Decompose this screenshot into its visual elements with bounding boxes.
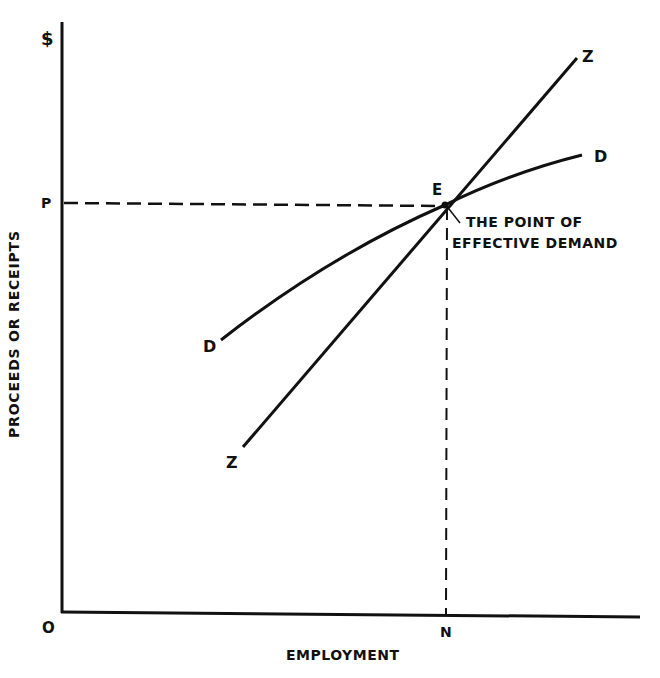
y-tick-p-label: P — [41, 196, 52, 210]
y-axis-title: PROCEEDS OR RECEIPTS — [6, 230, 22, 438]
price-guide-dashed — [64, 203, 444, 206]
curve-z-start-label: Z — [226, 455, 238, 471]
annotation-pointer — [449, 209, 460, 223]
x-tick-n-label: N — [440, 625, 452, 639]
y-axis-unit-label: $ — [41, 30, 54, 48]
employment-guide-dashed — [446, 208, 447, 614]
curve-d-start-label: D — [203, 339, 216, 355]
intersection-e-label: E — [432, 183, 442, 198]
origin-label: O — [42, 621, 55, 636]
diagram-canvas — [0, 0, 660, 678]
curve-d-end-label: D — [594, 149, 607, 165]
x-axis — [61, 612, 640, 617]
annotation-line-1: THE POINT OF — [466, 215, 583, 229]
annotation-line-2: EFFECTIVE DEMAND — [452, 236, 618, 250]
intersection-point-e — [442, 202, 449, 209]
supply-curve-z — [243, 58, 577, 447]
curve-z-end-label: Z — [582, 49, 594, 65]
x-axis-title: EMPLOYMENT — [286, 648, 399, 662]
